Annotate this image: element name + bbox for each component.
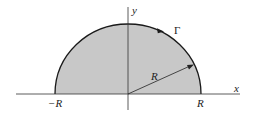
- y-axis-label: y: [131, 4, 137, 16]
- right-endpoint-label: R: [196, 97, 204, 109]
- radius-label: R: [150, 70, 158, 82]
- contour-label-gamma: Γ: [174, 24, 180, 36]
- left-endpoint-label: −R: [48, 97, 62, 109]
- contour-diagram: y x Γ R −R R: [0, 0, 254, 117]
- x-axis-label: x: [233, 82, 239, 94]
